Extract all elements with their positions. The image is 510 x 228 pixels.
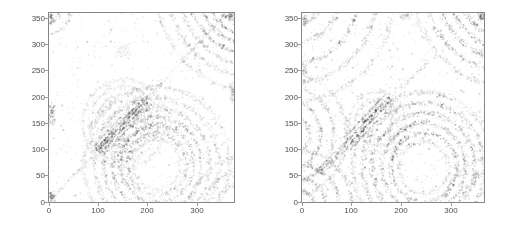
x-tick-label: 100 <box>338 206 364 215</box>
y-tick-label: 300 <box>271 40 298 49</box>
y-tick-label: 100 <box>271 145 298 154</box>
y-tick-label: 150 <box>18 119 45 128</box>
heatmap-canvas-left <box>49 13 234 202</box>
y-tick-label: 300 <box>18 40 45 49</box>
y-tick-mark <box>45 44 49 45</box>
y-tick-mark <box>45 97 49 98</box>
y-tick-mark <box>298 97 302 98</box>
y-tick-mark <box>298 44 302 45</box>
heatmap-canvas-right <box>302 13 484 202</box>
y-tick-mark <box>45 175 49 176</box>
y-tick-mark <box>298 175 302 176</box>
y-tick-label: 200 <box>271 93 298 102</box>
x-tick-label: 0 <box>289 206 315 215</box>
y-tick-label: 100 <box>18 145 45 154</box>
figure: 0501001502002503003500100200300 05010015… <box>0 0 510 228</box>
y-tick-label: 50 <box>271 171 298 180</box>
recurrence-plot-left: 0501001502002503003500100200300 <box>48 12 235 203</box>
y-tick-label: 250 <box>271 66 298 75</box>
y-tick-label: 50 <box>18 171 45 180</box>
y-tick-mark <box>298 18 302 19</box>
y-tick-mark <box>45 18 49 19</box>
recurrence-plot-right: 0501001502002503003500100200300 <box>301 12 485 203</box>
x-tick-label: 100 <box>85 206 111 215</box>
y-tick-label: 350 <box>18 14 45 23</box>
x-tick-label: 300 <box>184 206 210 215</box>
y-tick-label: 250 <box>18 66 45 75</box>
y-tick-mark <box>45 70 49 71</box>
x-tick-label: 200 <box>388 206 414 215</box>
x-tick-label: 300 <box>438 206 464 215</box>
y-tick-label: 350 <box>271 14 298 23</box>
y-tick-mark <box>298 149 302 150</box>
y-tick-mark <box>45 123 49 124</box>
y-tick-mark <box>45 149 49 150</box>
x-tick-label: 0 <box>36 206 62 215</box>
y-tick-mark <box>298 123 302 124</box>
y-tick-mark <box>298 70 302 71</box>
y-tick-label: 200 <box>18 93 45 102</box>
x-tick-label: 200 <box>134 206 160 215</box>
y-tick-label: 150 <box>271 119 298 128</box>
